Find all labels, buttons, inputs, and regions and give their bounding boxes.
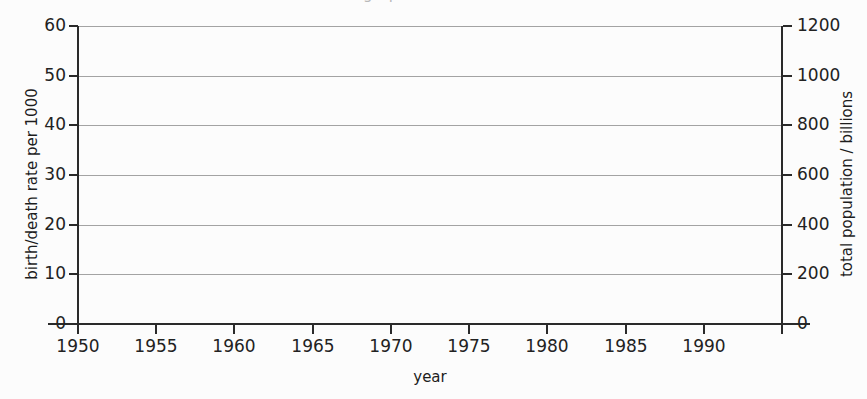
chart-title-remnant: demographic transition <box>200 0 620 3</box>
y-axis-right-tick <box>783 273 792 275</box>
y-axis-left-tick-label: 50 <box>44 67 66 84</box>
x-axis-title: year <box>78 368 782 386</box>
y-axis-right-tick <box>783 323 792 325</box>
x-axis-tick-label: 1950 <box>56 338 99 355</box>
gridline <box>78 26 782 27</box>
y-axis-right-tick-label: 800 <box>797 116 829 133</box>
x-axis-tick <box>468 325 470 334</box>
gridline <box>78 274 782 275</box>
x-axis-tick <box>155 325 157 334</box>
x-axis-tick-label: 1965 <box>291 338 334 355</box>
gridline <box>78 175 782 176</box>
y-axis-left-tick-label: 0 <box>55 315 66 332</box>
y-axis-left-tick <box>69 273 78 275</box>
y-axis-right-tick-label: 400 <box>797 216 829 233</box>
x-axis-tick <box>77 325 79 334</box>
y-axis-right-tick-label: 1000 <box>797 67 840 84</box>
x-axis-tick-label: 1985 <box>604 338 647 355</box>
gridline <box>78 76 782 77</box>
y-axis-left-title: birth/death rate per 1000 <box>23 54 41 314</box>
x-axis-tick <box>703 325 705 334</box>
y-axis-left-tick-label: 60 <box>44 17 66 34</box>
x-axis-tick <box>390 325 392 334</box>
y-axis-right-tick-label: 1200 <box>797 17 840 34</box>
x-axis-tick <box>546 325 548 334</box>
x-axis-tick <box>233 325 235 334</box>
x-axis-tick <box>781 325 783 334</box>
y-axis-right-tick <box>783 75 792 77</box>
x-axis-tick-label: 1970 <box>369 338 412 355</box>
y-axis-right-tick-label: 200 <box>797 265 829 282</box>
x-axis-spine <box>48 323 810 325</box>
y-axis-left-tick-label: 20 <box>44 216 66 233</box>
gridline <box>78 125 782 126</box>
y-axis-right-tick <box>783 224 792 226</box>
y-axis-left-tick <box>69 174 78 176</box>
y-axis-left-tick <box>69 224 78 226</box>
y-axis-left-tick-label: 10 <box>44 265 66 282</box>
y-axis-right-tick <box>783 25 792 27</box>
y-axis-left-tick <box>69 124 78 126</box>
x-axis-tick-label: 1980 <box>525 338 568 355</box>
x-axis-tick-label: 1960 <box>212 338 255 355</box>
x-axis-tick-label: 1955 <box>134 338 177 355</box>
chart-figure: demographic transition 0102030405060 020… <box>0 0 867 399</box>
y-axis-left-tick <box>69 25 78 27</box>
y-axis-right-tick <box>783 124 792 126</box>
gridline <box>78 225 782 226</box>
x-axis-tick <box>625 325 627 334</box>
y-axis-right-tick <box>783 174 792 176</box>
x-axis-tick <box>312 325 314 334</box>
y-axis-left-tick <box>69 75 78 77</box>
x-axis-tick-label: 1990 <box>682 338 725 355</box>
y-axis-right-tick-label: 0 <box>797 315 808 332</box>
y-axis-right-title: total population / billions <box>838 54 856 314</box>
x-axis-tick-label: 1975 <box>447 338 490 355</box>
y-axis-left-tick-label: 40 <box>44 116 66 133</box>
y-axis-left-tick-label: 30 <box>44 166 66 183</box>
y-axis-right-tick-label: 600 <box>797 166 829 183</box>
